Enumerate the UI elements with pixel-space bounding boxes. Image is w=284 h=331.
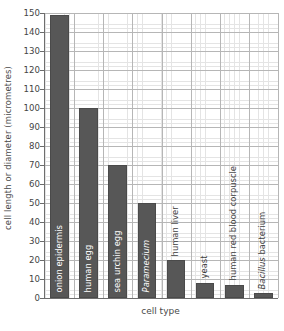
bar[interactable]: [167, 260, 186, 298]
y-axis-tick-label: 150: [24, 8, 40, 18]
bar-group[interactable]: onion epidermis: [50, 13, 69, 298]
bar-group[interactable]: human egg: [79, 13, 98, 298]
y-axis-tick-label: 60: [29, 179, 40, 189]
x-axis-title: cell type: [44, 306, 277, 316]
y-axis-tick-label: 70: [29, 160, 40, 170]
gridline-vertical: [278, 13, 279, 298]
y-axis-title: cell length or diameter (micrometres): [0, 0, 16, 296]
bar-label: human egg: [83, 244, 91, 292]
bar-label: Paramecium: [142, 240, 150, 292]
bar[interactable]: [254, 293, 273, 298]
bar-label: sea urchin egg: [113, 230, 121, 292]
y-axis-tick-label: 10: [29, 274, 40, 284]
bar[interactable]: [225, 285, 244, 298]
y-axis-tick-label: 40: [29, 217, 40, 227]
bar-label: yeast: [200, 256, 208, 279]
y-axis-tick-label: 90: [29, 122, 40, 132]
y-axis-tick-label: 120: [24, 65, 40, 75]
bar-label: Bacillus bacterium: [258, 212, 266, 290]
bar-chart: cell length or diameter (micrometres) 15…: [0, 0, 284, 331]
bars-layer: onion epidermishuman eggsea urchin eggPa…: [45, 13, 278, 298]
y-axis-tick-label: 100: [24, 103, 40, 113]
y-axis-tick-label: 20: [29, 255, 40, 265]
bar-group[interactable]: sea urchin egg: [108, 13, 127, 298]
bar-group[interactable]: human red blood corpuscle: [225, 13, 244, 298]
plot-area: onion epidermishuman eggsea urchin eggPa…: [44, 13, 278, 299]
y-axis-tick-label: 50: [29, 198, 40, 208]
bar-group[interactable]: Paramecium: [138, 13, 157, 298]
y-axis-tick-label: 140: [24, 27, 40, 37]
y-axis-title-label: cell length or diameter (micrometres): [3, 66, 13, 230]
bar-group[interactable]: yeast: [196, 13, 215, 298]
bar-label: human liver: [171, 206, 179, 256]
y-axis-tick-labels: 1501401301201101009080706050403020100: [16, 13, 40, 298]
y-axis-tick-label: 80: [29, 141, 40, 151]
y-axis-tick-label: 110: [24, 84, 40, 94]
bar-group[interactable]: human liver: [167, 13, 186, 298]
bar-label: onion epidermis: [54, 225, 62, 292]
bar-label: human red blood corpuscle: [229, 166, 237, 280]
y-axis-tick-label: 30: [29, 236, 40, 246]
bar[interactable]: [196, 283, 215, 298]
y-axis-tick-label: 130: [24, 46, 40, 56]
bar-group[interactable]: Bacillus bacterium: [254, 13, 273, 298]
